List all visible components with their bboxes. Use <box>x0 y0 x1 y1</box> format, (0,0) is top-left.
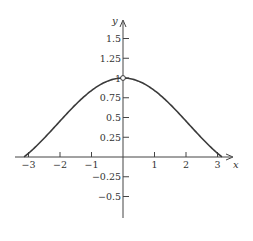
x-tick-label: 3 <box>214 159 220 170</box>
y-tick-label: 0.75 <box>100 92 121 103</box>
open-circle-marker <box>121 76 126 81</box>
axes <box>15 20 233 218</box>
x-tick-label: 2 <box>183 159 189 170</box>
y-tick-label: 0.25 <box>100 132 121 143</box>
y-tick-label: 1.25 <box>100 53 121 64</box>
x-ticks: −3−2−1123 <box>21 152 220 170</box>
x-tick-label: −1 <box>84 159 98 170</box>
y-tick-label: 0.5 <box>106 112 121 123</box>
x-tick-label: −2 <box>53 159 67 170</box>
y-tick-label: −0.25 <box>92 171 121 182</box>
y-ticks: 1.51.2510.750.50.25−0.25−0.5 <box>92 33 129 202</box>
x-axis-label: x <box>233 159 239 170</box>
y-tick-label: 1.5 <box>106 33 121 44</box>
y-tick-label: −0.5 <box>98 191 121 202</box>
x-tick-label: −3 <box>21 159 35 170</box>
x-tick-label: 1 <box>151 159 157 170</box>
chart-canvas: −3−2−1123 1.51.2510.750.50.25−0.25−0.5 x… <box>0 0 253 241</box>
y-axis-label: y <box>111 15 118 26</box>
